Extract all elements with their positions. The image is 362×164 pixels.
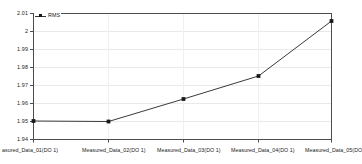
rms-line-chart: 2.01 2 1.99 1.98 1.97 1.96 1.95 1.94 asu…: [0, 0, 362, 164]
x-tick-label: Measured_Data_03(DO 1): [157, 148, 221, 153]
legend-label: RMS: [48, 13, 60, 18]
y-tick-label: 1.95: [0, 119, 28, 124]
rms-series-markers: [32, 19, 334, 123]
y-tick-label: 1.99: [0, 47, 28, 52]
rms-series-line: [34, 21, 332, 122]
y-tick-label: 1.98: [0, 65, 28, 70]
chart-legend: RMS: [34, 12, 61, 21]
x-tick-label: Measured_Data_05(DO: [305, 148, 362, 153]
y-tick-label: 1.97: [0, 83, 28, 88]
y-tick-label: 1.94: [0, 137, 28, 142]
legend-marker-icon: [35, 14, 46, 19]
horizontal-gridlines: [33, 32, 332, 122]
x-tick-label: Measured_Data_04(DO 1): [231, 148, 295, 153]
plot-area: [0, 0, 362, 164]
x-tick-label: Measured_Data_02(DO 1): [82, 148, 146, 153]
y-tick-label: 1.96: [0, 101, 28, 106]
y-tick-label: 2.01: [0, 11, 28, 16]
x-tick-label: asured_Data_01(DO 1): [2, 148, 58, 153]
y-tick-label: 2: [0, 29, 28, 34]
